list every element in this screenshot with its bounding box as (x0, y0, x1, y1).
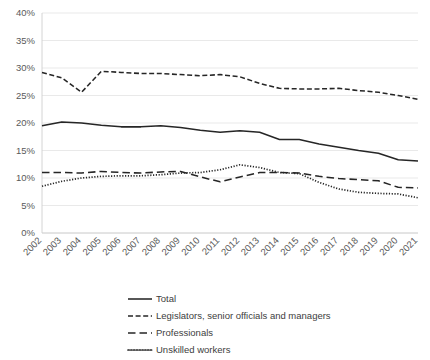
gridlines (42, 13, 418, 233)
x-axis-tick-label: 2015 (278, 235, 301, 258)
y-axis-tick-label: 20% (16, 117, 36, 128)
y-axis-tick-label: 15% (16, 145, 36, 156)
legend-label: Unskilled workers (156, 344, 231, 355)
y-axis-tick-label: 5% (21, 200, 35, 211)
y-axis-tick-labels: 0%5%10%15%20%25%30%35%40% (16, 7, 36, 238)
x-axis-tick-label: 2010 (179, 235, 202, 258)
data-series (42, 71, 418, 198)
x-axis-tick-labels: 2002200320042005200620072008200920102011… (21, 235, 420, 258)
y-axis-tick-label: 30% (16, 62, 36, 73)
chart-container: 0%5%10%15%20%25%30%35%40% 20022003200420… (0, 0, 430, 360)
legend-label: Legislators, senior officials and manage… (156, 310, 331, 321)
line-chart: 0%5%10%15%20%25%30%35%40% 20022003200420… (0, 0, 430, 360)
chart-legend: TotalLegislators, senior officials and m… (128, 293, 331, 355)
legend-label: Total (156, 293, 176, 304)
x-axis-tick-label: 2016 (298, 235, 321, 258)
series-line-3 (42, 165, 418, 198)
x-axis-tick-label: 2011 (199, 235, 221, 257)
y-axis-tick-label: 25% (16, 90, 36, 101)
legend-label: Professionals (156, 327, 213, 338)
x-axis-tick-label: 2004 (60, 235, 83, 258)
x-axis-tick-label: 2008 (139, 235, 162, 258)
x-axis-tick-label: 2019 (357, 235, 380, 258)
y-axis-tick-label: 35% (16, 35, 36, 46)
legend-item-1[interactable]: Legislators, senior officials and manage… (128, 310, 331, 321)
legend-item-2[interactable]: Professionals (128, 327, 213, 338)
x-axis-tick-label: 2009 (159, 235, 182, 258)
legend-item-0[interactable]: Total (128, 293, 176, 304)
x-axis-tick-label: 2003 (40, 235, 63, 258)
x-axis-tick-label: 2018 (337, 235, 360, 258)
x-axis-tick-label: 2017 (318, 235, 341, 258)
x-axis-tick-label: 2005 (80, 235, 103, 258)
series-line-2 (42, 171, 418, 188)
x-axis-tick-label: 2007 (120, 235, 143, 258)
x-axis-tick-label: 2006 (100, 235, 123, 258)
x-axis-tick-label: 2021 (397, 235, 420, 258)
x-axis-tick-label: 2014 (258, 235, 281, 258)
legend-item-3[interactable]: Unskilled workers (128, 344, 231, 355)
series-line-0 (42, 122, 418, 161)
x-axis-tick-label: 2020 (377, 235, 400, 258)
y-axis-tick-label: 10% (16, 172, 36, 183)
x-axis-tick-label: 2013 (238, 235, 261, 258)
x-axis-tick-label: 2012 (219, 235, 242, 258)
y-axis-tick-label: 40% (16, 7, 36, 18)
